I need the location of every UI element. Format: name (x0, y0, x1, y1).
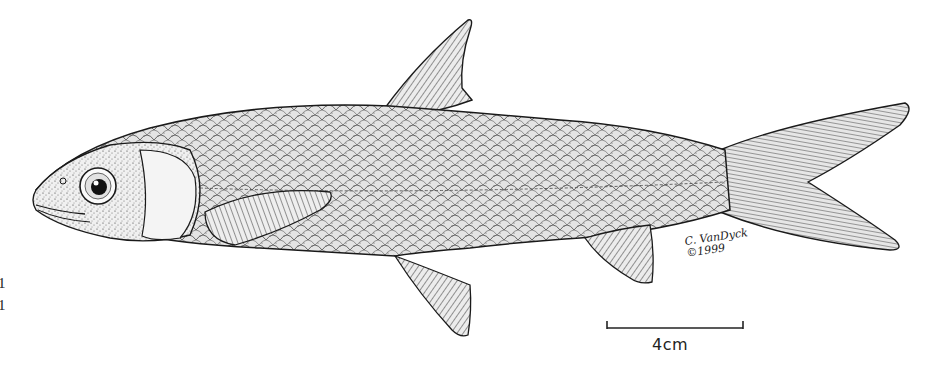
edge-label: 1 (0, 276, 6, 291)
scale-bar-label: 4cm (652, 335, 688, 354)
edge-label: 1 (0, 298, 6, 313)
fish-illustration-figure: 1 1 4cm C. VanDyck ©1999 (0, 0, 936, 371)
fish-illustration (0, 0, 936, 371)
caudal-fin (720, 103, 909, 250)
dorsal-fin (385, 20, 472, 114)
pelvic-fin (395, 256, 471, 336)
scale-bar (607, 321, 743, 329)
eye-icon (80, 168, 116, 204)
